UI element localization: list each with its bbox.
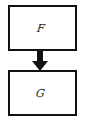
node-g: G [8,70,77,116]
node-g-label: G [35,87,46,100]
node-f-label: F [36,22,45,35]
node-f: F [8,5,77,51]
